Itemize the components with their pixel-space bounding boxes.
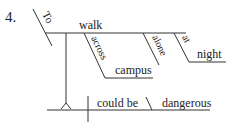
word-night: night [197,47,222,61]
pedestal-fork [61,103,71,109]
word-to: To [40,9,56,25]
word-campus: campus [115,63,152,77]
word-walk: walk [79,18,102,32]
complement-slash [146,97,152,110]
word-at: at [180,33,193,45]
word-across: across [89,34,110,61]
item-number: 4. [5,9,16,25]
word-could-be: could be [97,96,138,110]
word-dangerous: dangerous [162,96,212,110]
sentence-diagram: 4. To walk across campus alone at night … [0,0,236,124]
